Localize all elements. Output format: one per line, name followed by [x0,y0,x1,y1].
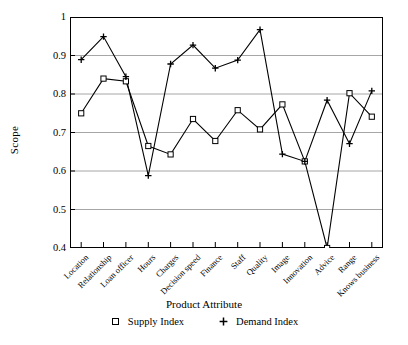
y-axis-tick-labels: 0.40.50.60.70.80.91 [38,17,66,248]
series-lines [81,30,372,248]
y-axis-tick-label: 1 [42,12,66,22]
y-axis-tick-label: 0.5 [42,205,66,215]
gridlines [70,17,383,248]
plot-svg [70,17,383,248]
data-point-marker [168,152,173,157]
data-point-marker [257,127,262,132]
data-point-marker [79,111,84,116]
data-point-marker [347,91,352,96]
legend-entry-supply-index: Supply Index [110,316,184,327]
series-line-supply-index [81,79,372,248]
data-point-marker [325,245,330,248]
legend-label-supply-index: Supply Index [128,316,184,327]
data-point-marker [324,97,330,103]
data-point-marker [190,116,195,121]
data-point-marker [235,108,240,113]
series-markers [78,27,375,249]
plus-marker-icon [218,316,229,327]
y-axis-tick-label: 0.7 [42,128,66,138]
chart-figure: Scope 0.40.50.60.70.80.91 LocationRelati… [0,0,408,345]
y-axis-tick-label: 0.4 [42,243,66,253]
open-square-marker-icon [110,316,121,327]
data-point-marker [213,138,218,143]
legend-entry-demand-index: Demand Index [218,316,298,327]
data-point-marker [101,76,106,81]
y-axis-tick-label: 0.8 [42,89,66,99]
y-axis-tick-label: 0.9 [42,51,66,61]
legend-label-demand-index: Demand Index [236,316,298,327]
chart-legend: Supply Index Demand Index [0,316,408,327]
data-point-marker [280,102,285,107]
plot-area [70,17,383,248]
x-axis-title: Product Attribute [0,298,408,310]
series-line-demand-index [81,30,372,176]
data-point-marker [369,114,374,119]
data-point-marker [145,172,152,178]
data-point-marker [346,141,352,147]
y-axis-title: Scope [8,100,20,180]
y-axis-tick-label: 0.6 [42,166,66,176]
data-point-marker [369,88,375,94]
data-point-marker [279,151,285,157]
data-point-marker [146,143,151,148]
